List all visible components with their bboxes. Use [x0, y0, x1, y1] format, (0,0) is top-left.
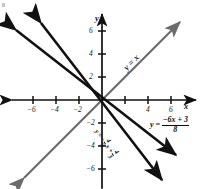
fraction-denominator: 8 [172, 126, 178, 134]
y-tick-label-6: 6 [89, 27, 93, 35]
x-axis-label: x [184, 102, 188, 111]
fraction-numerator: −6x + 3 [162, 116, 189, 124]
x-tick-label-6: 6 [169, 106, 173, 114]
y-axis-label: y [95, 14, 99, 23]
x-tick-label--6: −6 [27, 106, 36, 114]
fraction-label-lead: y = [150, 121, 160, 129]
y-tick-label-2: 2 [89, 73, 93, 81]
coordinate-plane-svg [0, 0, 215, 189]
y-tick-label-4: 4 [89, 50, 93, 58]
x-tick-label-4: 4 [146, 106, 150, 114]
x-tick-label--4: −4 [50, 106, 59, 114]
y-tick-label--6: −6 [86, 165, 95, 173]
x-tick-label--2: −2 [73, 106, 82, 114]
line-label-fraction: y = −6x + 3 8 [150, 116, 189, 135]
y-tick-label--2: −2 [86, 119, 95, 127]
y-tick-label--4: −4 [86, 142, 95, 150]
fraction-stack: −6x + 3 8 [162, 116, 189, 135]
graph-figure: −6 −4 −2 4 6 6 4 2 −2 −4 −6 y x y = x y … [0, 0, 215, 189]
